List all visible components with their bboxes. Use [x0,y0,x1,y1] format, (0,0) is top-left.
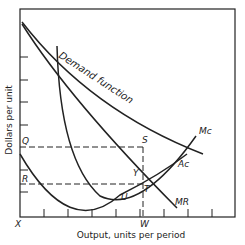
q-level-label: Q [22,136,29,146]
marginal-revenue-curve [22,24,177,208]
x-axis-label: Output, units per period [77,230,185,240]
point-s-label: S [142,135,148,145]
w-level-label: W [140,219,150,229]
point-t-label: T [144,184,151,194]
origin-label: X [14,219,22,229]
marginal-cost-label: Mc [199,126,212,136]
demand-curve-label: Demand function [57,49,135,105]
r-level-label: R [22,174,28,184]
economics-diagram: Demand function Mc Ac MR S Y T U Q R W X… [0,0,245,245]
x-axis-ticks [44,209,212,217]
average-cost-curve [20,154,187,210]
y-axis-label: Dollars per unit [4,85,14,155]
marginal-revenue-label: MR [175,197,189,207]
point-u-label: U [121,192,128,202]
plot-frame [20,9,235,217]
average-cost-label: Ac [177,159,189,169]
y-axis-ticks [20,57,28,192]
